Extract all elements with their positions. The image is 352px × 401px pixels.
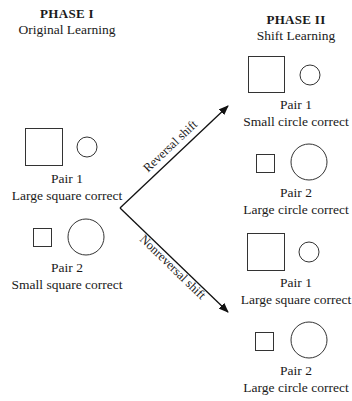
pair-rule: Large square correct [241, 291, 352, 308]
reversal-shift-arrow [120, 106, 228, 208]
phase2-pair2-nonreversal-shapes [256, 322, 328, 358]
pair-number: Pair 2 [243, 362, 348, 379]
large-square-icon [26, 129, 63, 166]
phase2-pair1-nonreversal-label: Pair 1 Large square correct [241, 274, 352, 308]
pair-number: Pair 1 [243, 96, 349, 113]
pair-number: Pair 2 [243, 184, 348, 201]
small-square-icon [34, 229, 52, 247]
phase2-pair1-nonreversal-shapes [248, 234, 320, 271]
large-circle-icon [291, 144, 327, 180]
small-circle-icon [77, 137, 97, 157]
phase2-pair2-reversal-shapes [257, 144, 328, 180]
large-circle-icon [291, 322, 327, 358]
small-circle-icon [300, 65, 320, 85]
phase2-pair2-reversal-label: Pair 2 Large circle correct [243, 184, 348, 218]
phase2-pair1-reversal-label: Pair 1 Small circle correct [243, 96, 349, 130]
pair-rule: Large square correct [12, 187, 123, 204]
pair-rule: Large circle correct [243, 201, 348, 218]
pair-number: Pair 1 [241, 274, 352, 291]
reversal-shift-label: Reversal shift [140, 117, 200, 175]
small-circle-icon [299, 242, 319, 262]
phase1-pair1-label: Pair 1 Large square correct [12, 170, 123, 204]
nonreversal-shift-label: Nonreversal shift [137, 232, 209, 302]
large-square-icon [249, 57, 285, 93]
phase2-pair2-nonreversal-label: Pair 2 Large circle correct [243, 362, 348, 396]
pair-rule: Small circle correct [243, 113, 349, 130]
phase2-pair1-reversal-shapes [249, 57, 321, 93]
small-square-icon [257, 155, 275, 173]
large-square-icon [248, 234, 285, 271]
phase1-pair1-shapes [26, 129, 98, 166]
large-circle-icon [68, 219, 104, 255]
phase1-pair2-shapes [34, 219, 105, 255]
small-square-icon [256, 333, 274, 351]
pair-number: Pair 2 [12, 259, 123, 276]
pair-rule: Small square correct [12, 276, 123, 293]
pair-rule: Large circle correct [243, 379, 348, 396]
pair-number: Pair 1 [12, 170, 123, 187]
phase1-pair2-label: Pair 2 Small square correct [12, 259, 123, 293]
